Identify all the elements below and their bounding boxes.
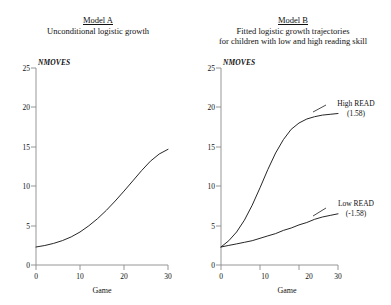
panel-b-svg	[195, 0, 391, 305]
leader-line-high-read	[313, 105, 326, 112]
panel-a-plot-area	[0, 0, 196, 305]
panel-b-plot-area	[195, 0, 391, 305]
panel-a-x-ticks	[36, 265, 168, 270]
panel-model-a: Model A Unconditional logistic growth NM…	[0, 0, 196, 305]
panel-b-y-ticks	[216, 68, 221, 265]
curve-low-read	[221, 214, 338, 247]
panel-a-growth-trajectory	[36, 149, 168, 247]
panel-a-svg	[0, 0, 196, 305]
panel-model-b: Model B Fitted logistic growth trajector…	[195, 0, 391, 305]
figure-container: Model A Unconditional logistic growth NM…	[0, 0, 391, 305]
panel-b-x-ticks	[221, 265, 338, 270]
curve-high-read	[221, 114, 338, 248]
panel-a-y-ticks	[31, 68, 36, 265]
leader-line-low-read	[313, 208, 326, 216]
